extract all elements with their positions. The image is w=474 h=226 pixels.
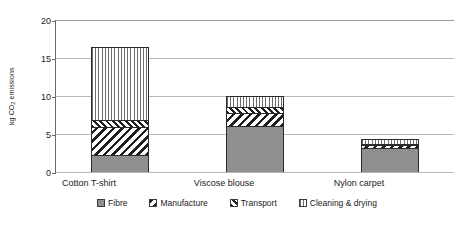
y-axis-title-subscript: 2 xyxy=(10,101,16,104)
bar-segment-cotton-fibre[interactable] xyxy=(91,155,149,173)
legend-swatch-transport-icon xyxy=(230,199,238,207)
x-axis-label-cotton-t-shirt: Cotton T-shirt xyxy=(19,178,159,188)
bar-segment-cotton-transport[interactable] xyxy=(91,120,149,128)
plot-area: 20 15 10 5 0 xyxy=(55,20,454,173)
legend-swatch-manufacture-icon xyxy=(149,199,157,207)
legend-item-fibre[interactable]: Fibre xyxy=(97,198,127,208)
x-axis-label-nylon-carpet: Nylon carpet xyxy=(289,178,429,188)
y-axis-title: kg CO2 emissions xyxy=(8,56,22,136)
bar-segment-cotton-cleaning-drying[interactable] xyxy=(91,47,149,120)
ytick-label-0: 0 xyxy=(46,168,51,178)
legend-item-manufacture[interactable]: Manufacture xyxy=(149,198,207,208)
legend-label-cleaning-drying: Cleaning & drying xyxy=(310,198,377,208)
gridline-20: 20 xyxy=(56,20,454,21)
ytick-mark-10 xyxy=(52,97,56,98)
legend-label-fibre: Fibre xyxy=(108,198,127,208)
gridline-0: 0 xyxy=(56,172,454,173)
ytick-mark-20 xyxy=(52,21,56,22)
x-axis-label-viscose-blouse: Viscose blouse xyxy=(154,178,294,188)
legend-label-transport: Transport xyxy=(241,198,277,208)
bar-segment-cotton-manufacture[interactable] xyxy=(91,127,149,154)
ytick-mark-15 xyxy=(52,59,56,60)
legend-item-transport[interactable]: Transport xyxy=(230,198,277,208)
ytick-label-20: 20 xyxy=(41,16,51,26)
ytick-mark-5 xyxy=(52,135,56,136)
bar-segment-nylon-fibre[interactable] xyxy=(361,148,419,172)
co2-emissions-stacked-bar-chart: kg CO2 emissions 20 15 10 5 0 xyxy=(0,0,474,226)
legend: Fibre Manufacture Transport Cleaning & d… xyxy=(0,198,474,208)
ytick-label-5: 5 xyxy=(46,130,51,140)
y-axis-title-suffix: emissions xyxy=(8,67,15,101)
bar-segment-viscose-fibre[interactable] xyxy=(226,126,284,172)
legend-item-cleaning-drying[interactable]: Cleaning & drying xyxy=(299,198,377,208)
bar-segment-viscose-cleaning-drying[interactable] xyxy=(226,96,284,107)
legend-swatch-fibre-icon xyxy=(97,199,105,207)
bar-segment-viscose-manufacture[interactable] xyxy=(226,113,284,126)
ytick-label-10: 10 xyxy=(41,92,51,102)
ytick-mark-0 xyxy=(52,173,56,174)
legend-label-manufacture: Manufacture xyxy=(160,198,207,208)
y-axis-title-prefix: kg CO xyxy=(8,104,15,124)
legend-swatch-cleaning-drying-icon xyxy=(299,199,307,207)
ytick-label-15: 15 xyxy=(41,54,51,64)
